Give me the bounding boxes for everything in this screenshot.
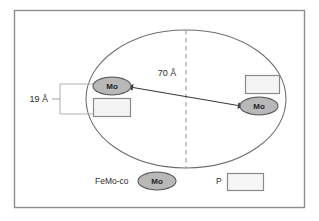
figure-root: Mo Mo 19 Å 70 Å FeMo-co Mo P [0,0,319,221]
legend-p-label: P [216,176,222,186]
legend-p-swatch [228,174,264,191]
femoco-node-left-label: Mo [106,82,118,91]
femoco-node-right-label: Mo [253,102,265,111]
p-cluster-box-right [246,76,280,94]
legend-femoco-label: FeMo-co [95,176,129,186]
distance-label-19: 19 Å [29,94,48,104]
nitrogenase-diagram: Mo Mo 19 Å 70 Å FeMo-co Mo P [0,0,319,221]
p-cluster-box-left [94,99,131,117]
legend-femoco-swatch-label: Mo [151,177,163,186]
distance-label-70: 70 Å [158,68,177,78]
